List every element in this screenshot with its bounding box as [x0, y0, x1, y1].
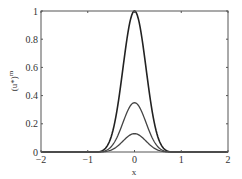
line-series-2: [41, 103, 228, 152]
x-tick-label: 0: [132, 154, 137, 165]
x-tick-label: −1: [82, 154, 93, 165]
y-tick-label: 0.8: [26, 34, 39, 45]
x-tick-label: 2: [226, 154, 231, 165]
y-axis-label: (u*)m: [7, 70, 19, 91]
axes-frame: [41, 11, 228, 152]
x-axis-label: x: [132, 167, 137, 177]
chart: −2−1012 00.20.40.60.81 x (u*)m: [0, 0, 242, 179]
x-axis-ticks: −2−1012: [36, 11, 231, 165]
y-axis-ticks: 00.20.40.60.81: [26, 6, 229, 158]
svg-text:(u*)m: (u*)m: [7, 70, 19, 91]
line-series-1: [41, 11, 228, 152]
line-series-3: [41, 134, 228, 152]
y-tick-label: 0.6: [26, 62, 39, 73]
plot-area: [41, 11, 228, 152]
x-tick-label: 1: [179, 154, 184, 165]
y-tick-label: 1: [33, 6, 38, 17]
y-tick-label: 0: [33, 147, 38, 158]
y-tick-label: 0.2: [26, 118, 39, 129]
y-tick-label: 0.4: [26, 90, 39, 101]
